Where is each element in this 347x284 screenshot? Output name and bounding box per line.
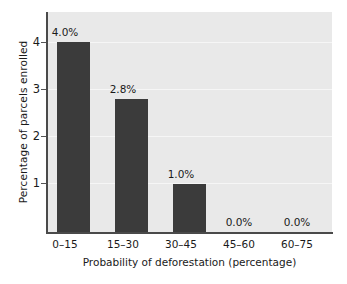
y-tick-label-3: 3 — [24, 84, 40, 95]
y-tick-label-1: 1 — [24, 178, 40, 189]
x-tick-label-0-15: 0–15 — [40, 238, 90, 250]
y-axis-tick-labels: 4 3 2 1 — [20, 0, 40, 284]
x-tick-label-45-60: 45–60 — [214, 238, 264, 250]
y-axis-line — [46, 12, 48, 233]
x-axis-title: Probability of deforestation (percentage… — [46, 256, 333, 268]
gridline-4 — [48, 42, 332, 43]
y-tick-label-2: 2 — [24, 131, 40, 142]
plot-area — [48, 12, 332, 232]
bar-15-30 — [115, 99, 148, 232]
value-label-30-45: 1.0% — [156, 169, 206, 180]
value-label-60-75: 0.0% — [272, 217, 322, 228]
value-label-0-15: 4.0% — [40, 27, 90, 38]
x-axis-line — [46, 232, 333, 234]
bar-30-45 — [173, 184, 206, 232]
gridline-3 — [48, 89, 332, 90]
bar-0-15 — [57, 42, 90, 232]
x-tick-label-15-30: 15–30 — [98, 238, 148, 250]
x-tick-label-30-45: 30–45 — [156, 238, 206, 250]
y-tick-label-4: 4 — [24, 37, 40, 48]
bar-chart-figure: Percentage of parcels enrolled 4 3 2 1 4… — [0, 0, 347, 284]
x-tick-label-60-75: 60–75 — [272, 238, 322, 250]
value-label-45-60: 0.0% — [214, 217, 264, 228]
value-label-15-30: 2.8% — [98, 84, 148, 95]
gridline-2 — [48, 136, 332, 137]
